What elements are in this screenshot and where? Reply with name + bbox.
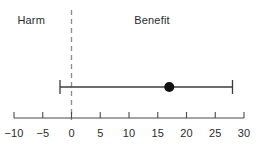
x-tick-label-6: 20 [180,127,192,139]
x-tick-label-4: 10 [123,127,135,139]
x-axis [14,112,244,118]
x-tick-label-1: −5 [36,127,49,139]
x-tick-label-0: −10 [5,127,24,139]
region-label-right: Benefit [134,14,170,26]
x-tick-label-8: 30 [238,127,250,139]
x-tick-label-5: 15 [152,127,164,139]
region-label-left: Harm [17,14,45,26]
x-tick-label-3: 5 [97,127,103,139]
estimate-dot-0-0 [164,82,174,92]
point-estimate-marker [164,82,174,92]
confidence-interval-bar [60,80,233,94]
x-tick-label-2: 0 [68,127,74,139]
x-tick-label-7: 25 [209,127,221,139]
forest-plot-figure: HarmBenefit −10−5051015202530 [0,0,262,146]
